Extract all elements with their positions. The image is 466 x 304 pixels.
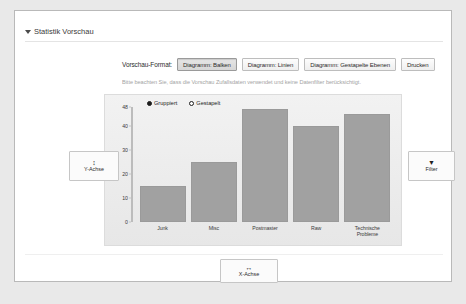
preview-format-toolbar: Vorschau-Format: Diagramm: Balken Diagra… [122,58,435,71]
bar-slot [140,107,186,222]
legend-marker-filled-icon [147,101,152,106]
statistics-preview-window: Statistik Vorschau Vorschau-Format: Diag… [14,10,452,282]
y-axis-tick-label: 48 [122,104,128,110]
y-axis-config-button[interactable]: ↕ Y-Achse [69,151,119,181]
preview-hint-text: Bitte beachten Sie, dass die Vorschau Zu… [122,79,422,85]
legend-marker-hollow-icon [189,101,194,106]
bar-series-gruppiert [137,107,393,222]
funnel-icon: ▼ [428,159,435,166]
bar-postmaster[interactable] [242,109,288,222]
y-axis-tick-label: 20 [122,171,128,177]
preview-format-label: Vorschau-Format: [122,61,172,68]
bar-misc[interactable] [191,162,237,222]
bottom-divider [25,254,443,255]
filter-button-label: Filter [426,167,438,172]
legend-label-grouped: Gruppiert [154,100,177,106]
filter-config-button[interactable]: ▼ Filter [408,151,455,181]
bar-junk[interactable] [140,186,186,222]
y-axis-tick-mark [129,222,132,223]
x-axis-tick-labels: JunkMiscPostmasterRawTechnische Probleme [137,226,393,237]
y-axis-tick-mark [129,174,132,175]
bar-technische-probleme[interactable] [344,114,390,222]
bar-slot [191,107,237,222]
chevron-down-icon [25,30,31,34]
chart-legend: Gruppiert Gestapelt [147,100,220,106]
x-axis-button-label: X-Achse [239,272,259,277]
horizontal-arrow-icon: ↔ [246,264,253,271]
y-axis-tick-mark [129,126,132,127]
bar-slot [293,107,339,222]
format-button-line-chart[interactable]: Diagramm: Linien [242,58,299,71]
y-axis-button-label: Y-Achse [84,167,104,172]
x-axis-tick-label: Junk [140,226,186,237]
format-button-print[interactable]: Drucken [401,58,435,71]
legend-label-stacked: Gestapelt [196,100,220,106]
bar-raw[interactable] [293,126,339,222]
plot-area: 01020304048 [131,107,393,222]
legend-item-grouped[interactable]: Gruppiert [147,100,177,106]
x-axis-tick-label: Technische Probleme [344,226,390,237]
y-axis-tick-label: 10 [122,195,128,201]
x-axis-tick-label: Misc [191,226,237,237]
bar-slot [344,107,390,222]
format-button-stacked-area-chart[interactable]: Diagramm: Gestapelte Ebenen [304,58,396,71]
y-axis-tick-mark [129,198,132,199]
x-axis-tick-label: Postmaster [242,226,288,237]
x-axis-config-button[interactable]: ↔ X-Achse [220,259,278,283]
y-axis-tick-mark [129,107,132,108]
x-axis-tick-label: Raw [293,226,339,237]
y-axis-tick-label: 30 [122,147,128,153]
y-axis-tick-mark [129,150,132,151]
section-header-statistik-vorschau[interactable]: Statistik Vorschau [25,27,94,36]
format-button-bar-chart[interactable]: Diagramm: Balken [177,58,237,71]
y-axis-tick-label: 40 [122,123,128,129]
bar-slot [242,107,288,222]
chart-panel: Gruppiert Gestapelt 01020304048 JunkMisc… [104,94,402,246]
section-title: Statistik Vorschau [34,27,94,36]
y-axis-line [131,107,133,222]
header-divider [25,41,443,42]
legend-item-stacked[interactable]: Gestapelt [189,100,220,106]
vertical-arrow-icon: ↕ [92,159,96,166]
